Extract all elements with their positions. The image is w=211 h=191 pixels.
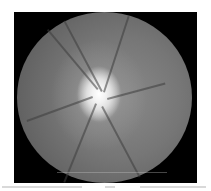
retina-fundus	[17, 12, 192, 183]
fundus-photo-frame	[14, 12, 197, 183]
blood-vessel	[103, 16, 129, 93]
blood-vessel	[27, 97, 93, 122]
blood-vessel	[102, 106, 141, 177]
blood-vessel	[64, 103, 97, 182]
scan-line	[57, 172, 167, 173]
bottom-caption-strip	[0, 184, 211, 191]
blood-vessel	[107, 82, 165, 99]
